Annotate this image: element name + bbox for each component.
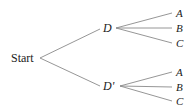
edge-dprime-b: [120, 86, 172, 87]
node-d-a: A: [175, 7, 183, 19]
edge-d-a: [116, 13, 172, 28]
edge-start-dprime: [40, 58, 100, 86]
node-d-c: C: [176, 37, 184, 49]
edge-dprime-c: [120, 86, 172, 101]
node-dprime-b: B: [176, 81, 183, 93]
node-start: Start: [11, 51, 34, 65]
edge-d-c: [116, 28, 172, 43]
node-d-b: B: [176, 22, 183, 34]
node-dprime-a: A: [175, 66, 183, 78]
edge-start-d: [40, 29, 100, 58]
node-dprime-c: C: [176, 95, 184, 107]
tree-diagram: Start D D' A B C A B C: [0, 0, 194, 111]
node-d: D: [102, 21, 112, 35]
edge-dprime-a: [120, 72, 172, 86]
node-dprime: D': [102, 79, 115, 93]
